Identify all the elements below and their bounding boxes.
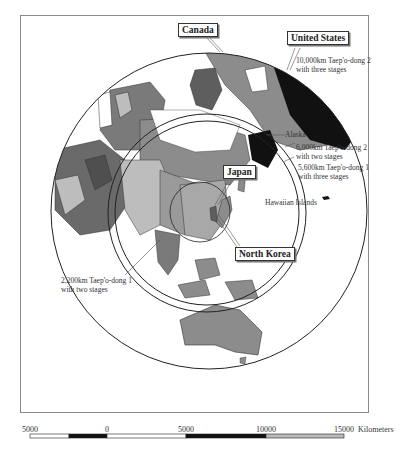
scale-bar [0, 0, 401, 461]
